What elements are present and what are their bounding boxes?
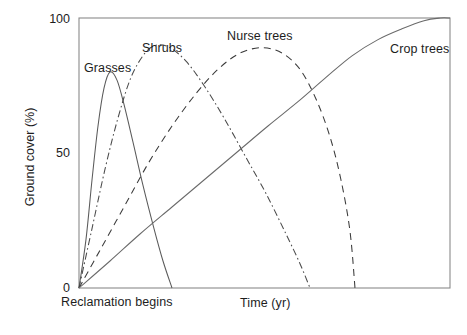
series-curves: [79, 18, 450, 288]
series-curve-shrubs: [79, 45, 310, 288]
x-origin-note: Reclamation begins: [61, 295, 173, 309]
y-tick-label-0: 0: [36, 281, 70, 295]
series-label-grasses: Grasses: [84, 61, 131, 75]
y-tick-label-100: 100: [36, 12, 70, 26]
series-curve-grasses: [79, 72, 172, 288]
y-axis-title: Ground cover (%): [23, 97, 37, 217]
series-label-crop-trees: Crop trees: [390, 42, 449, 56]
series-curve-crop-trees: [79, 18, 450, 288]
x-axis-title: Time (yr): [240, 296, 290, 310]
series-label-shrubs: Shrubs: [142, 41, 182, 55]
axes-frame: [79, 18, 450, 288]
y-tick-label-50: 50: [36, 146, 70, 160]
ground-cover-succession-chart: 100 50 0 Ground cover (%) Reclamation be…: [0, 0, 467, 335]
series-label-nurse-trees: Nurse trees: [227, 29, 293, 43]
